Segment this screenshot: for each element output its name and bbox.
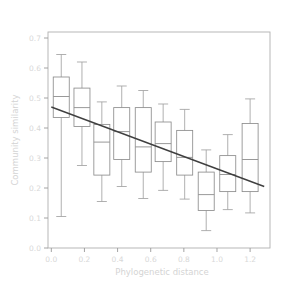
x-tick-label: 1.2	[244, 255, 256, 264]
boxplot-box	[94, 102, 110, 202]
boxplot-box	[74, 62, 90, 166]
y-tick-label: 0.2	[29, 184, 41, 193]
y-tick-label: 0.5	[29, 94, 41, 103]
x-tick-label: 1.0	[211, 255, 223, 264]
x-tick-label: 0.6	[145, 255, 157, 264]
y-tick-label: 0.0	[29, 244, 41, 253]
boxplot-box	[135, 91, 151, 199]
x-tick-label: 0.0	[45, 255, 57, 264]
boxplot-box	[114, 86, 130, 187]
boxplot-box	[242, 99, 258, 213]
trend-line	[51, 107, 264, 187]
chart-page: 0.00.10.20.30.40.50.60.7 0.00.20.40.60.8…	[0, 0, 298, 286]
y-axis-title: Community similarity	[10, 94, 20, 185]
y-tick-label: 0.4	[29, 124, 41, 133]
x-axis-title: Phylogenetic distance	[115, 267, 208, 277]
box-iqr	[94, 124, 110, 175]
y-tick-label: 0.7	[29, 34, 41, 43]
boxplot-box	[220, 135, 236, 210]
regression-line	[51, 107, 264, 187]
boxplot-box	[198, 150, 214, 231]
y-tick-label: 0.3	[29, 154, 41, 163]
plot-frame	[48, 32, 270, 248]
x-tick-label: 0.4	[112, 255, 124, 264]
y-tick-label: 0.1	[29, 214, 41, 223]
boxplot-chart: 0.00.10.20.30.40.50.60.7 0.00.20.40.60.8…	[0, 0, 298, 286]
box-iqr	[198, 172, 214, 210]
y-axis-ticks: 0.00.10.20.30.40.50.60.7	[29, 34, 48, 253]
boxplot-box	[53, 55, 69, 217]
x-tick-label: 0.2	[78, 255, 90, 264]
box-iqr	[155, 122, 171, 162]
x-axis-ticks: 0.00.20.40.60.81.01.2	[45, 248, 256, 264]
x-tick-label: 0.8	[178, 255, 190, 264]
boxplot-series	[53, 55, 258, 231]
box-iqr	[177, 130, 193, 175]
y-tick-label: 0.6	[29, 64, 41, 73]
